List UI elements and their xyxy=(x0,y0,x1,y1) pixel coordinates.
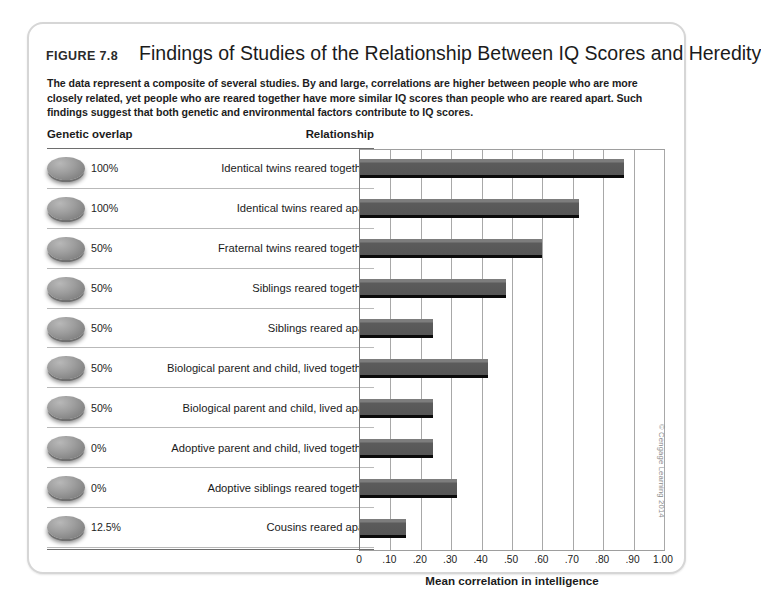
x-tick-label: 0 xyxy=(356,554,362,565)
bar-row xyxy=(360,470,664,510)
x-tick-label: .20 xyxy=(413,554,427,565)
bar xyxy=(360,239,542,258)
figure-header: FIGURE 7.8 Findings of Studies of the Re… xyxy=(46,40,666,69)
genetic-overlap-cell: 0% xyxy=(47,436,151,459)
figure-title: Findings of Studies of the Relationship … xyxy=(128,40,761,66)
x-axis-title: Mean correlation in intelligence xyxy=(359,574,665,587)
table-row: 100%Identical twins reared together xyxy=(47,149,374,189)
figure-number: FIGURE 7.8 xyxy=(46,43,128,69)
copyright-notice: © Cengage Learning 2014 xyxy=(657,424,666,518)
disc-icon xyxy=(47,317,85,340)
table-row: 50%Siblings reared apart xyxy=(47,309,374,349)
genetic-overlap-cell: 0% xyxy=(47,476,151,499)
genetic-overlap-cell: 50% xyxy=(47,356,151,379)
genetic-overlap-cell: 12.5% xyxy=(47,516,151,539)
genetic-overlap-cell: 50% xyxy=(47,317,151,340)
figure-card: FIGURE 7.8 Findings of Studies of the Re… xyxy=(27,22,686,574)
relationship-label: Biological parent and child, lived toget… xyxy=(151,362,374,374)
relationship-label: Biological parent and child, lived apart xyxy=(151,402,374,414)
relationship-label: Siblings reared apart xyxy=(151,322,374,334)
x-tick-label: .50 xyxy=(504,554,518,565)
bar-row xyxy=(360,150,664,190)
bar-row xyxy=(360,510,664,550)
bar xyxy=(360,479,457,498)
x-axis-ticks: 0.10.20.30.40.50.60.70.80.901.00 xyxy=(359,554,665,570)
relationship-label: Adoptive parent and child, lived togethe… xyxy=(151,442,374,454)
genetic-overlap-value: 12.5% xyxy=(85,521,121,533)
genetic-overlap-value: 50% xyxy=(85,362,112,374)
bar-row xyxy=(360,350,664,390)
disc-icon xyxy=(47,197,85,220)
disc-icon xyxy=(47,237,85,260)
genetic-overlap-value: 50% xyxy=(85,402,112,414)
bar xyxy=(360,399,433,418)
genetic-overlap-value: 0% xyxy=(85,442,106,454)
genetic-overlap-value: 100% xyxy=(85,202,118,214)
relationship-label: Siblings reared together xyxy=(151,282,374,294)
genetic-overlap-value: 50% xyxy=(85,242,112,254)
table-row: 0%Adoptive siblings reared together xyxy=(47,468,374,508)
genetic-overlap-cell: 100% xyxy=(47,157,151,180)
figure-caption: The data represent a composite of severa… xyxy=(47,76,665,120)
table-row: 50%Biological parent and child, lived to… xyxy=(47,348,374,388)
disc-icon xyxy=(47,396,85,419)
bar-row xyxy=(360,310,664,350)
table-row: 100%Identical twins reared apart xyxy=(47,189,374,229)
column-header-genetic-overlap: Genetic overlap xyxy=(47,128,132,140)
x-tick-label: .90 xyxy=(626,554,640,565)
disc-icon xyxy=(47,516,85,539)
bar xyxy=(360,439,433,458)
bottom-rule xyxy=(47,549,374,550)
bar xyxy=(360,199,579,218)
table-row: 50%Siblings reared together xyxy=(47,269,374,309)
column-header-relationship: Relationship xyxy=(306,128,374,140)
relationship-label: Adoptive siblings reared together xyxy=(151,482,374,494)
table-row: 0%Adoptive parent and child, lived toget… xyxy=(47,428,374,468)
bar-row xyxy=(360,270,664,310)
bar xyxy=(360,279,506,298)
disc-icon xyxy=(47,436,85,459)
bar xyxy=(360,159,624,178)
label-rows: 100%Identical twins reared together100%I… xyxy=(47,149,374,548)
genetic-overlap-value: 100% xyxy=(85,162,118,174)
bar-row xyxy=(360,230,664,270)
relationship-label: Identical twins reared apart xyxy=(151,202,374,214)
bar-row xyxy=(360,390,664,430)
x-tick-label: .30 xyxy=(443,554,457,565)
x-tick-label: 1.00 xyxy=(653,554,673,565)
genetic-overlap-value: 0% xyxy=(85,482,106,494)
relationship-label: Cousins reared apart xyxy=(151,521,374,533)
disc-icon xyxy=(47,157,85,180)
genetic-overlap-cell: 50% xyxy=(47,237,151,260)
table-row: 12.5%Cousins reared apart xyxy=(47,508,374,548)
genetic-overlap-value: 50% xyxy=(85,282,112,294)
disc-icon xyxy=(47,356,85,379)
x-tick-label: .70 xyxy=(565,554,579,565)
chart-plot-area xyxy=(359,149,665,551)
genetic-overlap-cell: 100% xyxy=(47,197,151,220)
table-row: 50%Biological parent and child, lived ap… xyxy=(47,388,374,428)
bar xyxy=(360,319,433,338)
genetic-overlap-cell: 50% xyxy=(47,277,151,300)
genetic-overlap-cell: 50% xyxy=(47,396,151,419)
x-tick-label: .10 xyxy=(382,554,396,565)
x-tick-label: .80 xyxy=(595,554,609,565)
bar xyxy=(360,359,488,378)
disc-icon xyxy=(47,476,85,499)
bar-row xyxy=(360,190,664,230)
table-row: 50%Fraternal twins reared together xyxy=(47,229,374,269)
bar-row xyxy=(360,430,664,470)
relationship-label: Identical twins reared together xyxy=(151,162,374,174)
genetic-overlap-value: 50% xyxy=(85,322,112,334)
relationship-label: Fraternal twins reared together xyxy=(151,242,374,254)
bar xyxy=(360,519,406,538)
column-headers: Genetic overlap Relationship xyxy=(47,128,374,140)
x-tick-label: .60 xyxy=(534,554,548,565)
disc-icon xyxy=(47,277,85,300)
x-tick-label: .40 xyxy=(474,554,488,565)
